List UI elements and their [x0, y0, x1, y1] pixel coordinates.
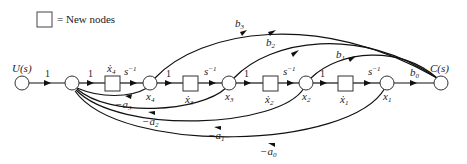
- legend-box-icon: [37, 12, 52, 27]
- node-input: [15, 76, 29, 90]
- node-x1: [380, 76, 394, 90]
- node-output: [434, 76, 448, 90]
- label-b3: b3: [235, 17, 245, 31]
- label-x3dot: ẋ3: [184, 93, 194, 107]
- node-junction: [65, 76, 79, 90]
- svg-text:s−1: s−1: [368, 65, 381, 77]
- legend-text: = New nodes: [57, 13, 115, 25]
- box-x2dot: [263, 76, 278, 91]
- label-x3: x3: [224, 90, 234, 104]
- svg-text:s−1: s−1: [283, 65, 296, 77]
- node-x4: [143, 76, 157, 90]
- signal-flow-graph: = New nodes: [0, 0, 467, 164]
- gain-g1: 1: [88, 68, 93, 79]
- gain-input: 1: [45, 68, 50, 79]
- box-x1dot: [338, 76, 353, 91]
- box-x3dot: [183, 76, 198, 91]
- feedforward-paths: [155, 34, 437, 78]
- svg-text:s−1: s−1: [204, 65, 217, 77]
- label-a0: −a0: [260, 145, 277, 159]
- label-b1: b1: [336, 48, 345, 62]
- gain-g2: 1: [166, 68, 171, 79]
- input-label: U(s): [12, 62, 32, 75]
- gain-g3: 1: [244, 68, 249, 79]
- gain-g4: 1: [320, 68, 325, 79]
- label-a1: −a1: [208, 129, 224, 143]
- label-a3: −a3: [115, 98, 132, 112]
- legend: = New nodes: [37, 12, 115, 27]
- label-x2dot: ẋ2: [264, 93, 274, 107]
- label-x2: x2: [301, 90, 311, 104]
- svg-text:s−1: s−1: [124, 65, 137, 77]
- label-x4dot: ẋ4: [106, 62, 116, 76]
- node-x2: [299, 76, 313, 90]
- box-x4dot: [105, 76, 120, 91]
- label-x1: x1: [382, 90, 391, 104]
- output-label: C(s): [430, 62, 449, 75]
- label-b2: b2: [266, 36, 276, 50]
- label-x1dot: ẋ1: [339, 93, 348, 107]
- node-x3: [222, 76, 236, 90]
- label-a2: −a2: [142, 115, 159, 129]
- label-x4: x4: [145, 90, 155, 104]
